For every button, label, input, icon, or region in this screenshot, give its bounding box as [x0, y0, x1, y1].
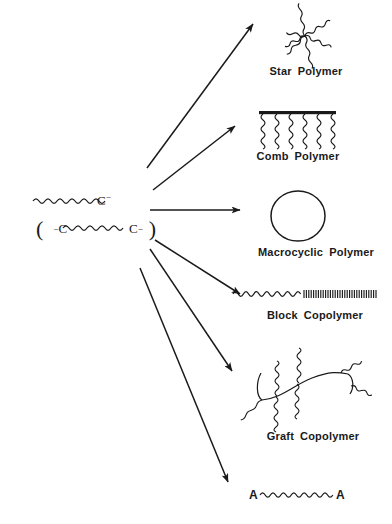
monoanion-chain-squiggle [33, 199, 105, 204]
macrocyclic-polymer-structure [271, 191, 325, 241]
block-copolymer-structure [233, 290, 376, 298]
dianion-formula: ( −C C− ) [36, 218, 156, 240]
comb-polymer-label: CombPolymer [248, 150, 348, 162]
monoanion-charge: − [106, 192, 111, 202]
block-copolymer-label: BlockCopolymer [250, 309, 380, 321]
arrow-to-star [147, 24, 253, 168]
polymer-architecture-diagram: C− ( −C C− ) StarPolymer CombPolymer Mac… [0, 0, 392, 524]
comb-polymer-structure [259, 111, 336, 149]
dianion-close-paren: ) [149, 218, 156, 240]
monoanion-formula: C− [97, 192, 111, 209]
arrow-to-graft [150, 249, 232, 371]
star-polymer-label: StarPolymer [256, 65, 356, 77]
graft-copolymer-label: GraftCopolymer [248, 430, 378, 442]
telechelic-end-group-left: A [249, 488, 258, 502]
dianion-charge-right: − [138, 224, 143, 234]
block-copolymer-hatched-segment [304, 290, 376, 298]
star-polymer-structure [285, 3, 331, 68]
diagram-canvas [0, 0, 392, 524]
telechelic-end-group-right: A [336, 488, 345, 502]
dianion-carbon-left: C [58, 221, 67, 237]
arrow-to-block [155, 240, 240, 294]
graft-copolymer-structure [241, 348, 372, 432]
macrocyclic-polymer-label: MacrocyclicPolymer [244, 246, 388, 258]
dianion-open-paren: ( [36, 218, 43, 240]
dianion-carbon-right: C [129, 221, 138, 237]
telechelic-chain-squiggle [260, 493, 333, 497]
arrow-to-comb [153, 126, 235, 190]
monoanion-carbon: C [97, 193, 106, 208]
